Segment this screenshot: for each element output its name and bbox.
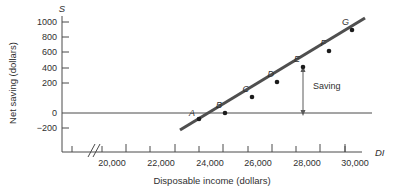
saving-schedule-chart: 1000 800 600 400 200 0 −200 S Net saving… — [0, 0, 399, 191]
x-axis-title: Disposable income (dollars) — [153, 175, 270, 186]
data-point-label-e: E — [294, 54, 301, 64]
data-point-a — [197, 117, 202, 122]
x-tick-label-28000: 28,000 — [293, 158, 321, 168]
x-axis-symbol: DI — [375, 147, 385, 158]
y-axis-title: Net saving (dollars) — [7, 42, 18, 124]
x-tick-label-24000: 24,000 — [196, 158, 224, 168]
data-point-d — [275, 80, 280, 85]
data-point-label-g: G — [342, 17, 349, 27]
data-point-label-a: A — [188, 108, 195, 118]
y-tick-label-minus200: −200 — [37, 123, 57, 133]
data-point-label-d: D — [268, 69, 275, 79]
data-point-label-c: C — [243, 84, 250, 94]
data-point-b — [223, 111, 228, 116]
x-axis-break-icon — [88, 144, 100, 157]
y-tick-label-600: 600 — [42, 47, 57, 57]
chart-canvas: 1000 800 600 400 200 0 −200 S Net saving… — [0, 0, 399, 191]
data-point-f — [327, 49, 332, 54]
data-point-label-f: F — [321, 38, 327, 48]
y-tick-label-200: 200 — [42, 78, 57, 88]
data-point-label-b: B — [216, 100, 222, 110]
y-tick-label-1000: 1000 — [37, 17, 57, 27]
y-tick-label-800: 800 — [42, 32, 57, 42]
y-tick-label-400: 400 — [42, 63, 57, 73]
saving-annotation-label: Saving — [313, 81, 341, 91]
x-tick-label-26000: 26,000 — [244, 158, 272, 168]
x-tick-label-30000: 30,000 — [341, 158, 369, 168]
y-axis-symbol: S — [59, 3, 66, 14]
x-tick-label-20000: 20,000 — [98, 158, 126, 168]
saving-annotation: Saving — [301, 66, 341, 116]
data-point-e — [301, 65, 306, 70]
data-point-g — [350, 28, 355, 33]
x-tick-label-22000: 22,000 — [147, 158, 175, 168]
data-point-c — [250, 95, 255, 100]
y-tick-label-0: 0 — [52, 108, 57, 118]
